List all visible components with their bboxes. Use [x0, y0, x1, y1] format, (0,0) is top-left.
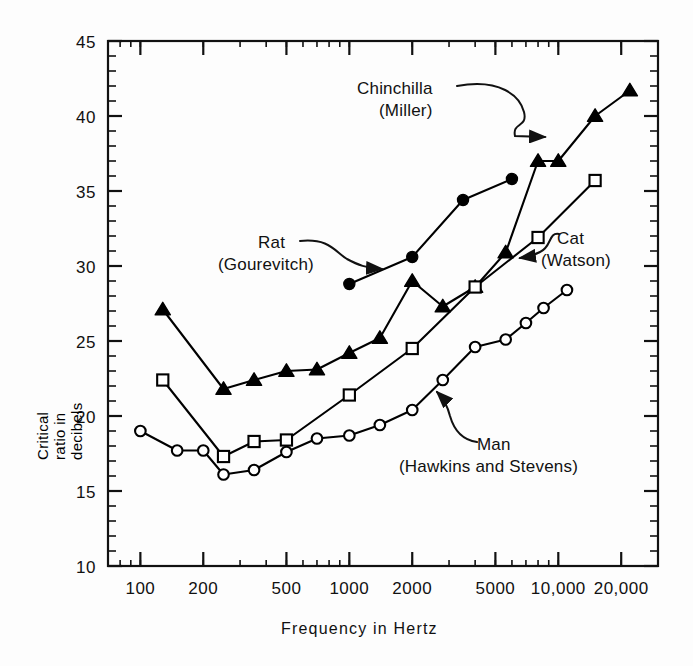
data-point [407, 343, 418, 354]
y-axis-label: Critical ratio in decibels [34, 403, 85, 460]
x-tick-label: 200 [188, 579, 218, 598]
data-point [281, 447, 292, 458]
x-tick-label: 5000 [475, 579, 515, 598]
data-point [342, 346, 357, 359]
data-point [622, 83, 637, 96]
series-1 [344, 173, 518, 289]
data-point [532, 232, 543, 243]
data-point [218, 451, 229, 462]
data-point [437, 375, 448, 386]
x-tick-label: 100 [125, 579, 155, 598]
x-tick-label: 2000 [392, 579, 432, 598]
data-point [498, 245, 513, 258]
annotation-cat-line1: Cat [557, 228, 584, 249]
y-tick-label: 35 [76, 183, 96, 202]
x-tick-label: 1000 [329, 579, 369, 598]
annotation-man-line1: Man [477, 434, 511, 455]
x-tick-label: 500 [271, 579, 301, 598]
y-axis-label-wrapper: Critical ratio in decibels [14, 170, 40, 470]
x-tick-label: 20,000 [594, 579, 649, 598]
data-point [135, 426, 146, 437]
data-point [538, 303, 549, 314]
annotation-rat-line2: (Gourevitch) [218, 254, 314, 275]
chart-canvas: 10020050010002000500010,00020,0001015202… [0, 0, 693, 666]
data-point [500, 334, 511, 345]
data-point [407, 405, 418, 416]
data-point [281, 434, 292, 445]
data-point [372, 331, 387, 344]
data-point [249, 465, 260, 476]
data-point [218, 469, 229, 480]
data-point [157, 374, 168, 385]
data-point [470, 342, 481, 353]
data-point [506, 173, 517, 184]
annotation-man-line2: (Hawkins and Stevens) [399, 456, 578, 477]
data-point [309, 362, 324, 375]
y-tick-label: 40 [76, 108, 96, 127]
critical-ratio-chart: 10020050010002000500010,00020,0001015202… [0, 0, 693, 666]
y-tick-label: 10 [76, 558, 96, 577]
x-tick-label: 10,000 [531, 579, 586, 598]
data-point [344, 278, 355, 289]
annotation-chinchilla-line2: (Miller) [379, 100, 433, 121]
data-point [312, 433, 323, 444]
data-point [375, 420, 386, 431]
data-point [521, 318, 532, 329]
callout-man [437, 392, 477, 442]
annotation-chinchilla-line1: Chinchilla [357, 78, 433, 99]
callout-chinchilla [457, 84, 545, 137]
annotation-cat-line2: (Watson) [541, 250, 611, 271]
data-point [344, 430, 355, 441]
y-tick-label: 15 [76, 483, 96, 502]
data-point [457, 194, 468, 205]
y-tick-label: 30 [76, 258, 96, 277]
data-point [155, 302, 170, 315]
data-point [198, 445, 209, 456]
data-point [344, 389, 355, 400]
x-axis-label: Frequency in Hertz [281, 620, 438, 638]
data-point [589, 175, 600, 186]
data-point [172, 445, 183, 456]
data-point [248, 436, 259, 447]
data-point [407, 251, 418, 262]
data-point [405, 274, 420, 287]
data-point [562, 285, 573, 296]
data-point [470, 281, 481, 292]
data-point [587, 109, 602, 122]
y-tick-label: 45 [76, 33, 96, 52]
y-tick-label: 25 [76, 333, 96, 352]
annotation-rat-line1: Rat [258, 232, 285, 253]
